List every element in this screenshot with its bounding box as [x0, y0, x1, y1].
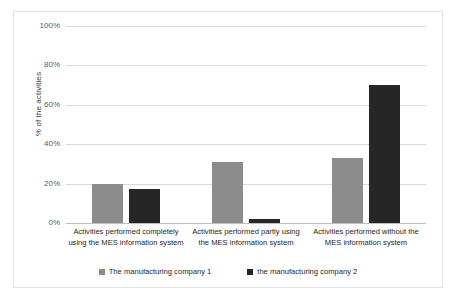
bar[interactable]	[129, 189, 160, 223]
bar[interactable]	[332, 158, 363, 223]
legend-swatch-icon	[99, 269, 105, 275]
x-axis-category-labels: Activities performed completely using th…	[66, 226, 426, 248]
y-axis-tick-label: 20%	[44, 180, 60, 188]
bar[interactable]	[249, 219, 280, 223]
plot-area: 100%80%60%40%20%0%	[66, 26, 426, 223]
bar-group	[66, 26, 186, 223]
y-axis-tick-label: 0%	[48, 219, 60, 227]
bar[interactable]	[369, 85, 400, 223]
bar[interactable]	[212, 162, 243, 223]
y-axis-tick-label: 60%	[44, 101, 60, 109]
legend-swatch-icon	[247, 269, 253, 275]
category-label: Activities performed completely using th…	[66, 226, 186, 248]
chart-legend: The manufacturing company 1the manufactu…	[14, 268, 442, 276]
legend-label: The manufacturing company 1	[109, 268, 212, 276]
bars-layer	[66, 26, 426, 223]
y-axis-tick-label: 80%	[44, 61, 60, 69]
category-label: Activities performed without the MES inf…	[306, 226, 426, 248]
legend-label: the manufacturing company 2	[257, 268, 357, 276]
bar[interactable]	[92, 184, 123, 223]
y-axis-tick-label: 40%	[44, 140, 60, 148]
bar-group	[306, 26, 426, 223]
legend-entry[interactable]: the manufacturing company 2	[247, 268, 357, 276]
category-label: Activities performed partly using the ME…	[186, 226, 306, 248]
chart-container: % of the activities 100%80%60%40%20%0% A…	[13, 11, 443, 288]
y-axis-tick-label: 100%	[40, 22, 60, 30]
gridline	[66, 223, 426, 224]
legend-entry[interactable]: The manufacturing company 1	[99, 268, 212, 276]
bar-group	[186, 26, 306, 223]
